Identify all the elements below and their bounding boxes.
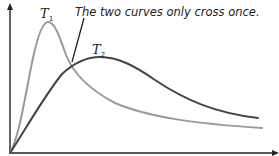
y-axis-arrow-icon [7, 3, 13, 10]
x-axis-arrow-icon [272, 150, 279, 156]
distribution-chart: T1 T2 The two curves only cross once. [0, 0, 279, 156]
series-t1-curve [10, 22, 262, 153]
series-t2-curve [10, 57, 258, 153]
crossing-annotation: The two curves only cross once. [75, 5, 260, 19]
series-t1-label: T1 [40, 6, 53, 23]
annotation-leader-line [72, 18, 84, 62]
series-t2-label: T2 [92, 42, 105, 59]
